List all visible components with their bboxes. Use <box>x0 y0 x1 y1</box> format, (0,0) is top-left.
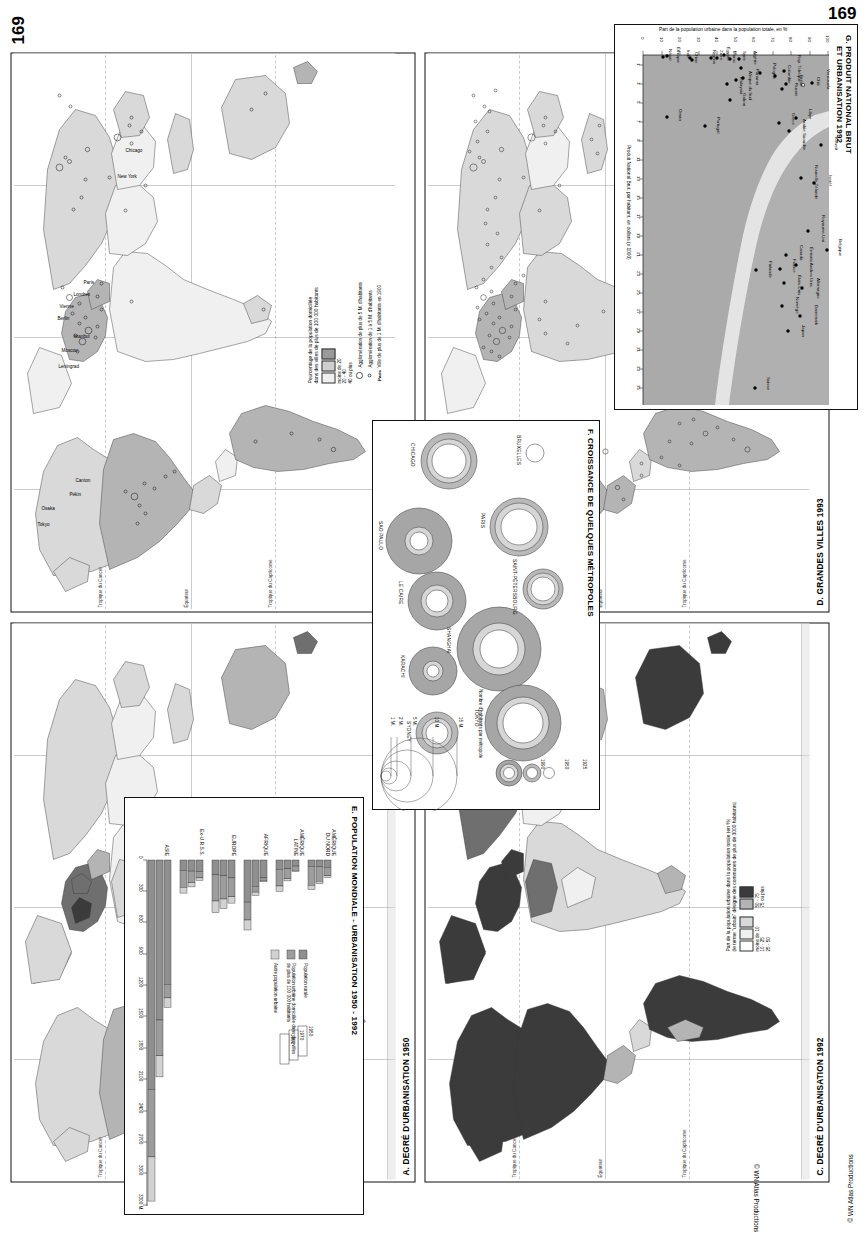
panel-a-id: A. <box>401 1166 410 1175</box>
panel-e-id: E. <box>350 806 359 814</box>
chart-g-ytick-30: 30 <box>696 37 701 42</box>
chart-g-ytick-10: 10 <box>659 37 664 42</box>
chart-g-label-egypte: Égypte <box>726 47 731 61</box>
chart-g-ytick-0: 0 <box>640 37 645 39</box>
chart-g-ytick-20: 20 <box>677 37 682 42</box>
chart-f-city-sao-paulo: SAO PAULO <box>378 521 383 550</box>
panel-e-label: E. POPULATION MONDIALE - URBANISATION 19… <box>350 806 359 1035</box>
city-label-new-york: New York <box>117 173 136 178</box>
chart-g-label-portugal: Portugal <box>716 117 721 133</box>
chart-g-label-royaume-uni: Royaume-Uni <box>821 215 826 242</box>
legend-swatch-50-75[interactable] <box>739 898 753 909</box>
panel-f-croissance-metropoles: F. CROISSANCE DE QUELQUES MÉTROPOLES <box>372 420 600 810</box>
chart-g-label-pologne: Pologne <box>772 63 777 79</box>
chart-g-label-chine: Chine <box>694 52 699 63</box>
chart-g-xtick-17: 17 <box>636 214 641 219</box>
panel-c-title: DEGRÉ D'URBANISATION 1992 <box>815 1037 824 1164</box>
legend-label-75-ou-plus: 75 ou plus <box>759 886 764 907</box>
chart-g-label-suisse: Suisse <box>766 377 771 390</box>
map-b-symbol-row-5m: Agglomération de plus de 5 M. d'habitant… <box>355 83 364 383</box>
city-label-tokyo: Tokyo <box>37 521 49 526</box>
chart-f-year-key-1925: 1925 <box>582 759 587 769</box>
map-b-symbol-label-1-5m: Agglomération de 1 à 5 M. d'habitants <box>367 290 372 367</box>
map-c-legend: Part de la population urbaine dans la po… <box>725 701 770 951</box>
chart-e-xtick-1200: 1200 <box>138 977 143 987</box>
panel-e-population-mondiale: E. POPULATION MONDIALE - URBANISATION 19… <box>124 797 364 1215</box>
panel-f-wrapper: F. CROISSANCE DE QUELQUES MÉTROPOLES <box>372 420 600 810</box>
legend-swatch-25-50[interactable] <box>739 916 753 927</box>
legend-label-50-75: 50 - 75 <box>754 893 759 907</box>
chart-g-label-nigeria: Nigéria <box>712 50 717 64</box>
legend-swatch-75-ou-plus[interactable] <box>739 886 753 897</box>
chart-g-ytick-70: 70 <box>770 37 775 42</box>
map-b-symbol-label-5m: Agglomération de plus de 5 M. d'habitant… <box>357 281 362 367</box>
city-label-leningrad: Leningrad <box>58 363 78 368</box>
legend-swatch-10-25[interactable] <box>739 928 753 939</box>
chart-g-label-france: France <box>792 259 797 273</box>
city-label-londres: Londres <box>73 291 90 296</box>
chart-g-xtick-11: 11 <box>636 157 641 162</box>
legend-label-25-50: 25 - 50 <box>765 937 770 951</box>
chart-g-label-russie: Russie <box>794 83 799 96</box>
chart-g-ylabel-text: Part de la population urbaine dans la po… <box>659 27 787 32</box>
chart-e-year-key-1992: 1992 <box>290 1034 295 1044</box>
chart-g-xtick-33: 33 <box>636 366 641 371</box>
map-b-equator-label: Équateur <box>183 588 188 607</box>
chart-g-xtick-21: 21 <box>636 252 641 257</box>
chart-e-xtick-2100: 2100 <box>138 1071 143 1081</box>
chart-e-year-key-1970: 1970 <box>299 1030 304 1040</box>
chart-e-category-europe: EUROPE <box>230 800 236 856</box>
chart-f-city-bruxelles: BRUXELLES <box>516 435 521 465</box>
chart-e-category-ex-urss: Ex-U.R.S.S. <box>198 800 204 856</box>
chart-e-xtick-0: 0 <box>138 856 143 859</box>
panel-f-rotated: F. CROISSANCE DE QUELQUES MÉTROPOLES <box>373 421 601 811</box>
map-b-symbol-label-paris-1900: Ville de plus de 1 M. d'habitants en 190… <box>376 284 381 367</box>
legend-label-10-25: 10 - 25 <box>759 937 764 951</box>
map-b-legend: Pourcentage de la population domiciliée … <box>307 83 381 383</box>
chart-f-svg <box>377 421 577 811</box>
chart-g-label-nouvelle-zelande: Nouvelle-Zélande <box>814 165 819 199</box>
chart-g-label-israel: Israël <box>828 175 833 186</box>
chart-g-ytick-80: 80 <box>788 37 793 42</box>
panel-d-title: GRANDES VILLES 1993 <box>815 498 824 594</box>
chart-g-label-colombie: Colombie <box>787 65 792 84</box>
city-label-chicago: Chicago <box>125 147 142 152</box>
city-label-vienne: Vienne <box>59 303 73 308</box>
chart-g-xtick-7: 7 <box>636 120 641 122</box>
chart-f-key-title: Nombre d'habitants par métropole <box>478 689 483 758</box>
chart-g-label-canada: Canada <box>799 245 804 260</box>
page-number: 169 <box>8 16 28 44</box>
chart-f-size-key-1m: 1 M. <box>390 717 395 726</box>
chart-e-year-key-1950: 1950 <box>308 1026 313 1036</box>
map-d-tropic-capricorn-label: Tropique du Capricorne <box>681 559 686 607</box>
chart-e-legend-population-rurale: Population rurale <box>303 963 308 998</box>
map-b-symbol-row-1-5m: Agglomération de 1 à 5 M. d'habitants <box>365 83 374 383</box>
chart-g-xtick-25: 25 <box>636 290 641 295</box>
legend-swatch-moins-de-10[interactable] <box>739 940 753 951</box>
chart-g-label-inde: Inde <box>686 50 691 59</box>
panel-g-pnb-urbanisation: G. PRODUIT NATIONAL BRUT ET URBANISATION… <box>614 24 858 410</box>
legend-swatch-moins-de-20[interactable] <box>321 372 335 383</box>
chart-f-city-sydney: SYDNEY <box>406 721 411 742</box>
chart-e-xtick-2700: 2700 <box>138 1134 143 1144</box>
city-label-istanbul: Istanbul <box>73 333 89 338</box>
chart-g-label-finlande: Finlande <box>768 261 773 278</box>
panel-g-title-line2: ET URBANISATION 1992 <box>835 46 844 143</box>
chart-g-label-danemark: Danemark <box>814 305 819 325</box>
chart-g-xtick-19: 19 <box>636 233 641 238</box>
chart-g-label-maroc: Maroc <box>732 51 737 63</box>
chart-f-city-chicago: CHICAGO <box>410 443 415 467</box>
city-label-berlin: Berlin <box>57 315 69 320</box>
chart-g-xtick-27: 27 <box>636 309 641 314</box>
chart-g-xtick-35: 35 <box>636 385 641 390</box>
chart-g-label-libye: Libye <box>808 109 813 120</box>
panel-e-rotated: E. POPULATION MONDIALE - URBANISATION 19… <box>125 798 365 1216</box>
legend-swatch-40-ou-plus[interactable] <box>321 348 335 359</box>
chart-g-ytick-60: 60 <box>751 37 756 42</box>
legend-swatch-20-40[interactable] <box>321 360 335 371</box>
chart-f-size-key-10m: 10 M. <box>434 717 439 729</box>
chart-e-xtick-600: 600 <box>138 915 143 923</box>
chart-e-xtick-2400: 2400 <box>138 1103 143 1113</box>
chart-e-category-asie: ASIE <box>163 800 169 856</box>
page-number-display: 169 <box>828 4 856 24</box>
